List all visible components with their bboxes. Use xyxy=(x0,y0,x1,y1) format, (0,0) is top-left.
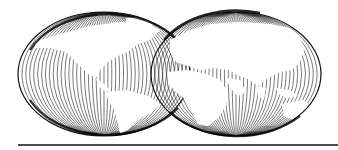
globes-svg xyxy=(0,0,338,150)
eastern-hemisphere-globe xyxy=(151,11,321,137)
globe-illustration xyxy=(0,0,338,150)
western-hemisphere-globe xyxy=(18,12,190,136)
eurasia-africa-australia-landmass xyxy=(168,22,314,126)
